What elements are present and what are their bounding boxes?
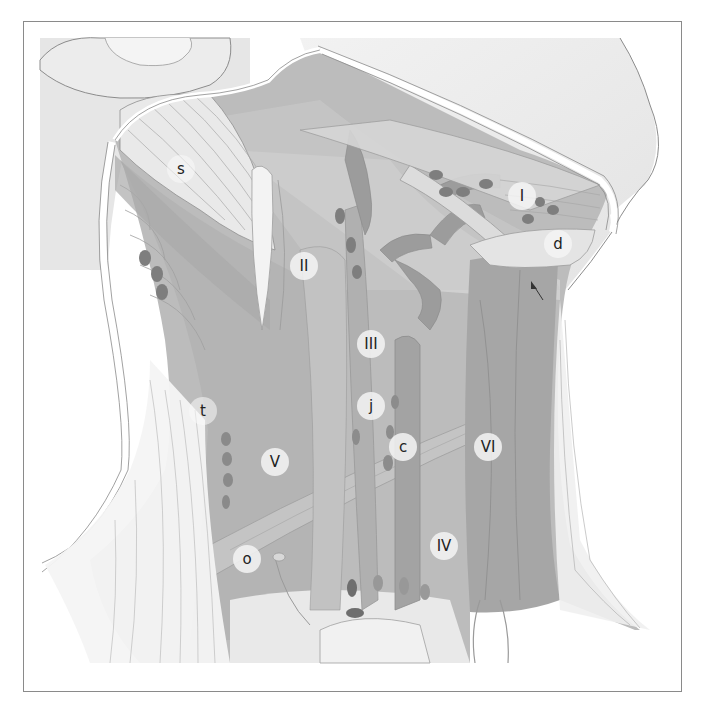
label-carotid-artery: c (389, 433, 417, 461)
label-level-III: III (357, 330, 385, 358)
label-jugular-vein: j (357, 392, 385, 420)
label-omohyoid: o (233, 545, 261, 573)
label-level-II: II (290, 252, 318, 280)
label-level-V: V (261, 448, 289, 476)
label-digastric: d (544, 230, 572, 258)
label-level-IV: IV (430, 532, 458, 560)
label-level-VI: VI (474, 433, 502, 461)
label-level-I: I (508, 182, 536, 210)
label-sternocleidomastoid: s (167, 155, 195, 183)
neck-anatomy-illustration (0, 0, 709, 718)
label-trapezius: t (189, 397, 217, 425)
